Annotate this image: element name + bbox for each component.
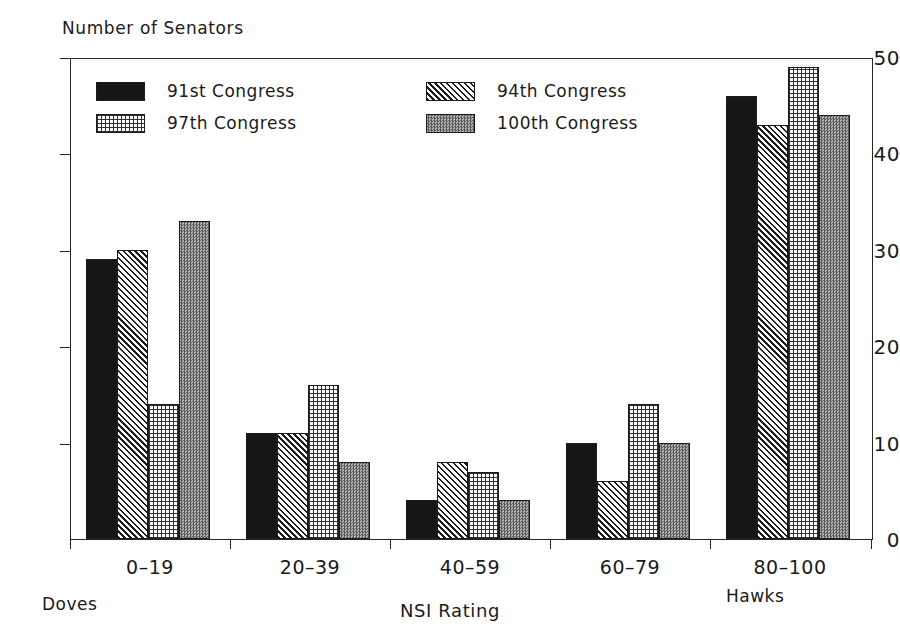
- bar-94th-60-79: [597, 481, 628, 539]
- bar-100th-60-79: [659, 443, 690, 539]
- x-tick-2: [390, 540, 391, 549]
- bar-100th-40-59: [499, 500, 530, 539]
- bar-94th-0-19: [117, 250, 148, 539]
- bar-97th-0-19: [148, 404, 179, 539]
- bar-group-80-100: [726, 59, 876, 539]
- chart-legend: 91st Congress 94th Congress 97th Congres…: [96, 75, 736, 139]
- x-tick-label-60-79: 60–79: [600, 556, 660, 578]
- legend-swatch-100th-icon: [426, 114, 475, 133]
- legend-entry-94th: 94th Congress: [426, 81, 736, 101]
- y-axis-title: Number of Senators: [62, 18, 244, 38]
- x-tick-3: [550, 540, 551, 549]
- legend-label-100th: 100th Congress: [497, 113, 638, 133]
- bar-91st-20-39: [246, 433, 277, 539]
- x-tick-0: [70, 540, 71, 549]
- bar-100th-80-100: [819, 115, 850, 539]
- legend-swatch-94th-icon: [426, 82, 475, 101]
- x-tick-4: [710, 540, 711, 549]
- legend-entry-91st: 91st Congress: [96, 81, 426, 101]
- bar-100th-0-19: [179, 221, 210, 539]
- x-axis-title: NSI Rating: [0, 600, 900, 621]
- bar-91st-80-100: [726, 96, 757, 539]
- x-tick-label-40-59: 40–59: [440, 556, 500, 578]
- legend-entry-100th: 100th Congress: [426, 113, 736, 133]
- legend-label-97th: 97th Congress: [167, 113, 297, 133]
- x-tick-label-80-100: 80–100: [754, 556, 827, 578]
- bar-97th-20-39: [308, 385, 339, 539]
- legend-entry-97th: 97th Congress: [96, 113, 426, 133]
- bar-97th-60-79: [628, 404, 659, 539]
- bar-94th-40-59: [437, 462, 468, 539]
- bar-94th-20-39: [277, 433, 308, 539]
- legend-swatch-91st-icon: [96, 82, 145, 101]
- x-tick-5: [871, 540, 872, 549]
- bar-91st-0-19: [86, 259, 117, 539]
- bar-91st-40-59: [406, 500, 437, 539]
- x-tick-label-0-19: 0–19: [126, 556, 174, 578]
- legend-label-91st: 91st Congress: [167, 81, 295, 101]
- bar-97th-40-59: [468, 472, 499, 540]
- bar-91st-60-79: [566, 443, 597, 539]
- bar-94th-80-100: [757, 125, 788, 540]
- legend-label-94th: 94th Congress: [497, 81, 627, 101]
- x-tick-1: [230, 540, 231, 549]
- bar-chart-figure: Number of Senators 50 40 30 20 10 0: [0, 0, 900, 641]
- bar-97th-80-100: [788, 67, 819, 539]
- bar-100th-20-39: [339, 462, 370, 539]
- x-tick-label-20-39: 20–39: [280, 556, 340, 578]
- legend-swatch-97th-icon: [96, 114, 145, 133]
